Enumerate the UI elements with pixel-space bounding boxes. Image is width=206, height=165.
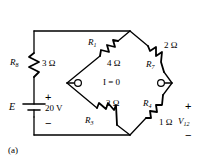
label-r3-value: 2 Ω <box>106 99 119 108</box>
label-r4-value: 1 Ω <box>159 118 172 127</box>
label-bridge-current: I = 0 <box>103 78 120 87</box>
wire-arm-bl-a <box>67 83 97 108</box>
wire-arm-tl-b <box>67 56 100 83</box>
label-output-plus: + <box>185 101 191 112</box>
label-r4-name: R4 <box>143 99 152 109</box>
circuit-diagram-figure: R8 3 Ω E + 20 V − R1 4 Ω 2 Ω R7 2 Ω R3 R… <box>0 0 206 165</box>
label-source-minus: − <box>45 118 51 129</box>
wire-arm-tr-b <box>164 72 172 83</box>
figure-caption: (a) <box>8 146 18 155</box>
label-r7-name: R7 <box>146 60 155 70</box>
label-output-name: V12 <box>178 117 190 127</box>
wire-arm-bl-b <box>117 125 130 135</box>
label-series-resistor-name: R8 <box>10 58 19 68</box>
label-source-plus: + <box>45 92 51 103</box>
wire-arm-br-a <box>130 118 146 135</box>
label-r1-name: R1 <box>88 38 97 48</box>
label-output-minus: − <box>185 130 191 141</box>
terminal-node-left-icon <box>75 80 82 87</box>
label-r3-name: R3 <box>85 116 94 126</box>
resistor-symbol-r1 <box>100 40 118 56</box>
label-r7-value: 2 Ω <box>164 41 177 50</box>
wire-arm-tr-a <box>130 31 148 46</box>
label-r1-value: 4 Ω <box>107 59 120 68</box>
label-series-resistor-value: 3 Ω <box>42 59 55 68</box>
terminal-node-right-icon <box>158 80 165 87</box>
label-source-name: E <box>9 102 15 112</box>
resistor-symbol-rs <box>29 53 39 77</box>
label-source-value: 20 V <box>45 104 63 113</box>
wire-arm-tl-a <box>118 31 130 41</box>
